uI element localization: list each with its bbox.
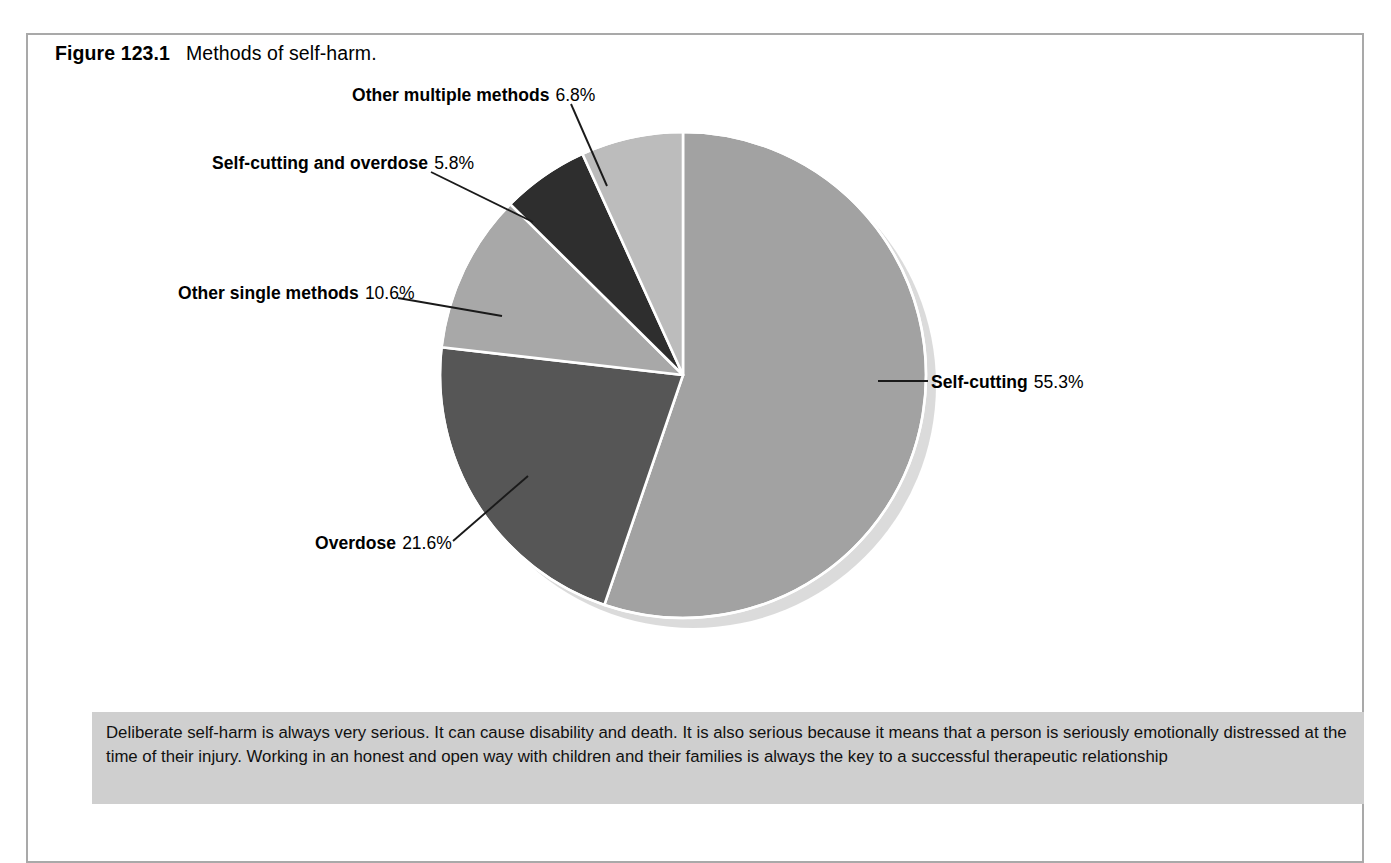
- pie-label-self-cutting-and-overdose-name: Self-cutting and overdose: [212, 153, 428, 173]
- pie-label-other-multiple-methods-name: Other multiple methods: [352, 85, 550, 105]
- pie-label-self-cutting-name: Self-cutting: [931, 372, 1028, 392]
- pie-chart: Other multiple methods6.8% Self-cutting …: [0, 0, 1391, 700]
- pie-label-self-cutting-value: 55.3%: [1034, 372, 1084, 392]
- pie-label-self-cutting-and-overdose: Self-cutting and overdose5.8%: [212, 155, 474, 173]
- pie-label-other-multiple-methods-value: 6.8%: [556, 85, 596, 105]
- pie-label-self-cutting: Self-cutting55.3%: [931, 374, 1083, 392]
- pie-chart-svg: [0, 0, 1391, 700]
- pie-slice-group: [440, 132, 926, 618]
- key-point-note-box: Deliberate self-harm is always very seri…: [92, 712, 1364, 804]
- pie-label-other-multiple-methods: Other multiple methods6.8%: [352, 87, 595, 105]
- pie-label-overdose: Overdose21.6%: [315, 535, 452, 553]
- pie-label-other-single-methods-name: Other single methods: [178, 283, 359, 303]
- pie-label-overdose-value: 21.6%: [402, 533, 452, 553]
- pie-label-self-cutting-and-overdose-value: 5.8%: [434, 153, 474, 173]
- pie-label-other-single-methods: Other single methods10.6%: [178, 285, 415, 303]
- pie-label-other-single-methods-value: 10.6%: [365, 283, 415, 303]
- pie-label-overdose-name: Overdose: [315, 533, 396, 553]
- key-point-note-text: Deliberate self-harm is always very seri…: [106, 721, 1350, 768]
